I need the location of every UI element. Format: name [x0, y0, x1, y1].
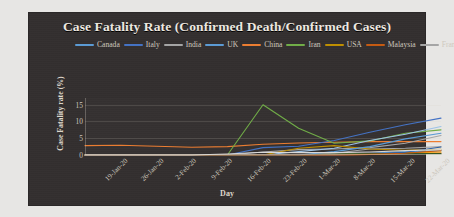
y-tick-label: 15	[63, 100, 83, 109]
legend-label: Italy	[146, 40, 160, 50]
plot-area	[85, 98, 441, 155]
x-axis-ticks: 19-Jan-2026-Jan-202-Feb-209-Feb-2016-Feb…	[85, 157, 441, 191]
legend-item-iran: Iran	[286, 40, 320, 50]
legend-swatch-icon	[242, 44, 261, 46]
legend-item-usa: USA	[325, 40, 362, 50]
legend-label: India	[186, 40, 202, 50]
legend-item-china: China	[242, 40, 282, 50]
y-tick-label: 0	[63, 151, 83, 160]
legend-label: Malaysia	[388, 40, 416, 50]
legend-item-uk: UK	[205, 40, 238, 50]
legend-item-italy: Italy	[124, 40, 160, 50]
x-tick-label: 8-Mar-20	[352, 157, 377, 182]
legend-swatch-icon	[205, 44, 224, 46]
x-tick-label: 2-Feb-20	[174, 157, 198, 181]
legend-swatch-icon	[420, 44, 439, 46]
y-tick-label: 5	[63, 134, 83, 143]
legend-swatch-icon	[124, 44, 143, 46]
x-tick-label: 16-Feb-20	[246, 157, 273, 184]
x-axis-line	[85, 154, 441, 155]
legend-swatch-icon	[325, 44, 344, 46]
x-tick-label: 26-Jan-20	[139, 157, 165, 183]
x-tick-label: 9-Feb-20	[210, 157, 234, 181]
x-tick-label: 15-Mar-20	[389, 157, 417, 185]
legend-swatch-icon	[286, 44, 305, 46]
series-line-spain	[85, 127, 441, 156]
legend-label: China	[264, 40, 282, 50]
legend-swatch-icon	[366, 44, 385, 46]
legend-label: Canada	[97, 40, 120, 50]
y-axis-line	[85, 98, 86, 155]
legend-item-malaysia: Malaysia	[366, 40, 416, 50]
legend-item-india: India	[164, 40, 202, 50]
series-lines	[85, 98, 441, 155]
legend-label: France	[442, 40, 454, 50]
legend-label: UK	[227, 40, 238, 50]
x-tick-label: 1-Mar-20	[317, 157, 342, 182]
y-axis-ticks: 051015	[61, 98, 83, 155]
chart-panel: Case Fatality Rate (Confirmed Death/Conf…	[29, 13, 425, 205]
legend-swatch-icon	[164, 44, 183, 46]
chart-screenshot: Case Fatality Rate (Confirmed Death/Conf…	[0, 0, 454, 217]
x-tick-label: 23-Feb-20	[282, 157, 309, 184]
x-axis-label: Day	[29, 189, 425, 198]
legend-label: Iran	[308, 40, 320, 50]
legend-label: USA	[347, 40, 362, 50]
chart-legend: CanadaItalyIndiaUKChinaIranUSAMalaysiaFr…	[75, 40, 419, 50]
legend-item-france: France	[420, 40, 454, 50]
legend-item-canada: Canada	[75, 40, 120, 50]
x-tick-label: 19-Jan-20	[103, 157, 129, 183]
y-tick-label: 10	[63, 117, 83, 126]
legend-swatch-icon	[75, 44, 94, 46]
chart-title: Case Fatality Rate (Confirmed Death/Conf…	[29, 19, 425, 35]
